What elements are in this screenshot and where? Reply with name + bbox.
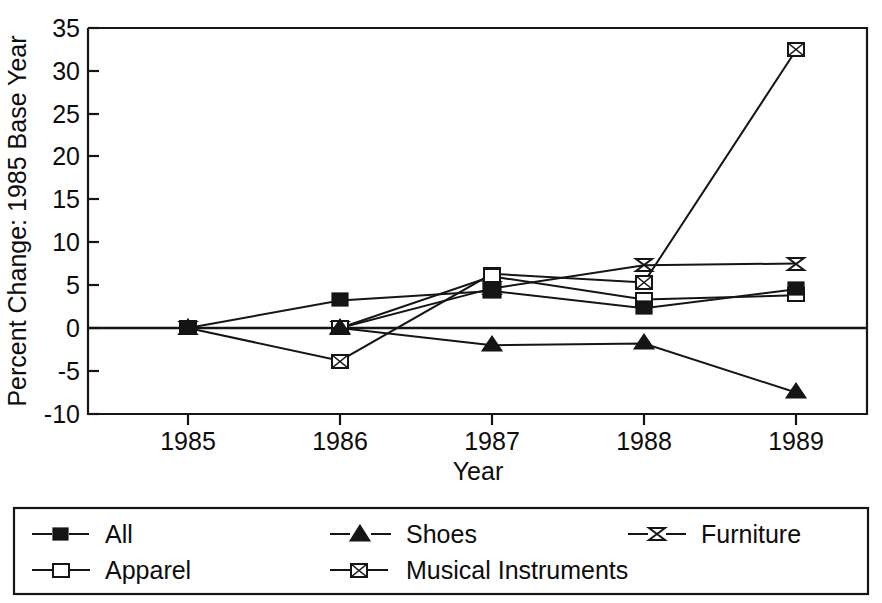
y-tick-label-20: 20 (52, 142, 80, 170)
legend-label-musical-instruments: Musical Instruments (406, 556, 628, 584)
series-musical-instruments (180, 43, 804, 368)
y-tick-label-0: 0 (66, 314, 80, 342)
x-tick-label-1989: 1989 (768, 427, 824, 455)
crossed-square-icon (351, 564, 367, 577)
series-all (180, 282, 804, 334)
series-shoes (179, 319, 806, 398)
legend: All Shoes Furniture Apparel (14, 508, 868, 594)
data-point-all-1989 (788, 282, 804, 295)
y-tick-label-30: 30 (52, 57, 80, 85)
series-apparel (180, 269, 804, 334)
y-tick-label-10: 10 (52, 228, 80, 256)
marker-group-musical-instruments (180, 43, 804, 368)
data-point-apparel-1987 (484, 269, 500, 282)
legend-label-all: All (105, 520, 133, 548)
chart-svg: 35 30 25 20 15 10 5 0 -5 -10 Percent Cha… (0, 0, 882, 603)
data-point-all-1987 (483, 283, 501, 298)
legend-label-shoes: Shoes (406, 520, 477, 548)
x-tick-label-1986: 1986 (312, 427, 368, 455)
x-tick-label-1987: 1987 (464, 427, 520, 455)
data-point-all-1986 (332, 293, 348, 306)
legend-label-furniture: Furniture (701, 520, 801, 548)
x-tick-label-1988: 1988 (616, 427, 672, 455)
plot-frame (88, 28, 867, 414)
y-tick-label-neg10: -10 (44, 400, 80, 428)
data-point-all-1988 (636, 301, 652, 314)
marker-group-apparel (180, 269, 804, 334)
x-axis: 1985 1986 1987 1988 1989 Year (160, 414, 824, 485)
line-chart-figure: 35 30 25 20 15 10 5 0 -5 -10 Percent Cha… (0, 0, 882, 603)
y-tick-label-35: 35 (52, 14, 80, 42)
data-point-musical-1989 (788, 43, 804, 56)
data-point-shoes-1988 (634, 334, 654, 349)
y-tick-label-25: 25 (52, 100, 80, 128)
data-point-musical-1986 (332, 355, 348, 368)
plot-border (88, 28, 867, 414)
y-tick-label-15: 15 (52, 185, 80, 213)
marker-group-shoes (179, 319, 806, 398)
y-tick-label-5: 5 (66, 271, 80, 299)
open-square-icon (53, 564, 69, 577)
x-axis-title: Year (453, 457, 504, 485)
y-tick-label-neg5: -5 (58, 357, 80, 385)
marker-group-all (180, 282, 804, 334)
series-line-musical-instruments (188, 50, 796, 361)
x-tick-label-1985: 1985 (160, 427, 216, 455)
data-point-musical-1988 (636, 276, 652, 289)
y-axis: 35 30 25 20 15 10 5 0 -5 -10 Percent Cha… (3, 14, 99, 428)
filled-square-icon (53, 528, 68, 540)
legend-label-apparel: Apparel (105, 556, 191, 584)
y-axis-title: Percent Change: 1985 Base Year (3, 35, 31, 406)
